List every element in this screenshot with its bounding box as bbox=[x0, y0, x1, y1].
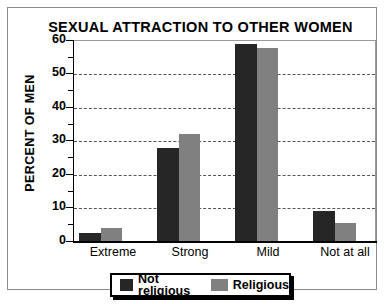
bar-mild-not-religious bbox=[235, 44, 257, 241]
chart-legend: Not religious Religious bbox=[110, 273, 291, 297]
y-tick-50 bbox=[66, 73, 74, 74]
x-tick-label-strong: Strong bbox=[145, 246, 235, 259]
gridline-40 bbox=[74, 108, 375, 109]
bar-not-at-all-not-religious bbox=[313, 211, 335, 241]
legend-swatch-religious bbox=[211, 279, 228, 291]
y-tick-label-50: 50 bbox=[10, 66, 66, 79]
y-tick-label-40: 40 bbox=[10, 100, 66, 113]
y-tick-label-60: 60 bbox=[10, 33, 66, 46]
y-axis-tick-labels: 60 50 40 30 20 10 0 bbox=[8, 8, 66, 304]
y-tick-label-20: 20 bbox=[10, 167, 66, 180]
chart-frame: SEXUAL ATTRACTION TO OTHER WOMEN PERCENT… bbox=[7, 7, 377, 290]
y-tick-label-10: 10 bbox=[10, 200, 66, 213]
gridline-20 bbox=[74, 175, 375, 176]
bar-strong-not-religious bbox=[157, 148, 179, 241]
legend-label-religious: Religious bbox=[233, 279, 289, 292]
bar-strong-religious bbox=[179, 134, 200, 241]
x-tick-label-not-at-all: Not at all bbox=[300, 246, 385, 259]
gridline-10 bbox=[74, 208, 375, 209]
bar-extreme-not-religious bbox=[79, 233, 101, 241]
legend-swatch-not-religious bbox=[120, 279, 133, 291]
x-axis-tick-labels: Extreme Strong Mild Not at all bbox=[74, 246, 376, 264]
gridline-30 bbox=[74, 141, 375, 142]
x-axis-line bbox=[73, 241, 377, 243]
legend-label-not-religious: Not religious bbox=[138, 273, 197, 298]
y-tick-label-30: 30 bbox=[10, 133, 66, 146]
y-tick-20 bbox=[66, 174, 74, 175]
gridline-50 bbox=[74, 74, 375, 75]
legend-item-religious: Religious bbox=[211, 279, 289, 292]
y-tick-label-0: 0 bbox=[10, 234, 66, 247]
bar-not-at-all-religious bbox=[335, 223, 356, 241]
y-tick-40 bbox=[66, 107, 74, 108]
y-tick-60 bbox=[66, 40, 74, 41]
y-tick-10 bbox=[66, 207, 74, 208]
legend-item-not-religious: Not religious bbox=[120, 273, 197, 298]
bar-mild-religious bbox=[257, 48, 278, 241]
plot-area bbox=[74, 40, 376, 241]
y-tick-30 bbox=[66, 140, 74, 141]
bar-extreme-religious bbox=[101, 228, 122, 241]
